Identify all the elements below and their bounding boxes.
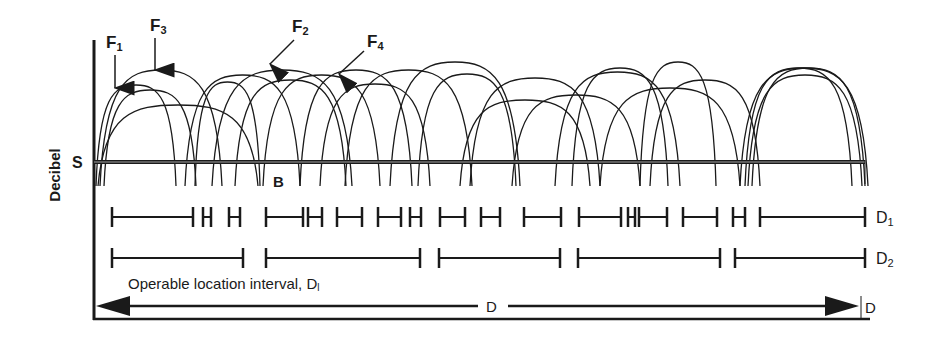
arrow-left-icon [96, 296, 130, 316]
interval-segment [112, 207, 193, 227]
signal-arch [555, 72, 680, 186]
d1-interval-row [112, 207, 865, 227]
interval-segment [579, 207, 621, 227]
arrow-right-icon [825, 296, 859, 316]
y-axis-label: Decibel [46, 148, 63, 201]
interval-segment [481, 207, 500, 227]
signal-arch [98, 105, 258, 186]
interval-segment [410, 207, 421, 227]
interval-segment [733, 207, 745, 227]
signal-arch [600, 88, 740, 186]
svg-text:F4: F4 [367, 32, 384, 52]
signal-arch [752, 68, 865, 186]
d2-row-label: D2 [876, 250, 894, 269]
d1-row-label: D1 [876, 209, 894, 228]
d2-interval-row [112, 248, 865, 268]
signal-arch [212, 70, 352, 186]
signal-arch [470, 78, 600, 186]
interval-segment [628, 207, 635, 227]
signal-arch [235, 80, 346, 186]
interval-segment [229, 207, 240, 227]
signal-arch [390, 62, 520, 186]
interval-segment [760, 207, 865, 227]
interval-segment [266, 207, 303, 227]
signal-arch [745, 68, 852, 186]
interval-segment [203, 207, 211, 227]
end-distance-label: D [865, 299, 876, 316]
frequency-label-f3: F3 [150, 16, 167, 70]
signal-arch [195, 82, 260, 186]
signal-arch [748, 75, 862, 186]
interval-segment [735, 248, 865, 268]
interval-segment [337, 207, 362, 227]
interval-segment [440, 207, 465, 227]
interval-segment [308, 207, 322, 227]
svg-text:F2: F2 [292, 17, 309, 37]
diagram-canvas: Decibel S B F1 F3 F2 F4 D1 D2 Operable l… [0, 0, 943, 344]
interval-segment [524, 207, 561, 227]
signal-curves [96, 62, 868, 186]
interval-caption: Operable location interval, Dl [128, 275, 320, 293]
svg-text:F1: F1 [106, 33, 123, 53]
interval-segment [378, 207, 401, 227]
interval-segment [578, 248, 720, 268]
threshold-label: S [72, 154, 83, 171]
total-distance-label: D [486, 298, 497, 315]
interval-segment [683, 207, 717, 227]
interval-segment [439, 248, 560, 268]
signal-arch [512, 95, 640, 186]
interval-segment [112, 248, 243, 268]
signal-arch [460, 100, 590, 186]
interval-segment [266, 248, 420, 268]
signal-arch [100, 70, 222, 186]
interval-segment [639, 207, 667, 227]
boundary-label: B [273, 173, 284, 190]
signal-arch [96, 85, 176, 186]
arrow-f2-icon [270, 40, 294, 64]
signal-arch [650, 80, 760, 186]
svg-text:F3: F3 [150, 16, 167, 36]
signal-arch [418, 74, 516, 186]
frequency-label-f2: F2 [270, 17, 309, 64]
frequency-label-f4: F4 [339, 32, 384, 74]
frequency-label-f1: F1 [106, 33, 123, 88]
total-distance-arrow [96, 296, 861, 318]
signal-arch [572, 68, 668, 186]
